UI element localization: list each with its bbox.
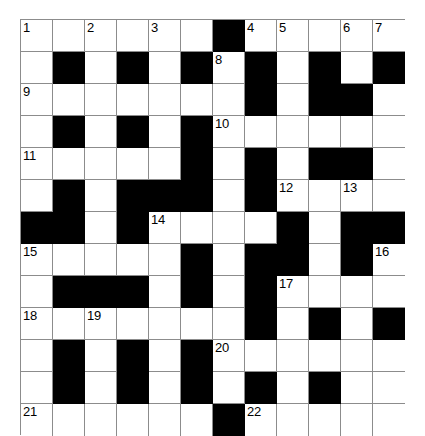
crossword-cell[interactable]: 3 — [149, 20, 181, 52]
crossword-cell[interactable] — [149, 52, 181, 84]
crossword-cell[interactable]: 18 — [21, 308, 53, 340]
crossword-cell[interactable] — [341, 404, 373, 436]
crossword-cell[interactable] — [213, 180, 245, 212]
crossword-cell[interactable]: 5 — [277, 20, 309, 52]
crossword-cell[interactable] — [149, 276, 181, 308]
crossword-cell[interactable] — [373, 372, 405, 404]
crossword-cell[interactable] — [373, 84, 405, 116]
crossword-cell[interactable] — [309, 276, 341, 308]
crossword-cell[interactable] — [309, 212, 341, 244]
crossword-cell[interactable]: 17 — [277, 276, 309, 308]
crossword-cell[interactable] — [85, 180, 117, 212]
crossword-cell[interactable] — [149, 372, 181, 404]
crossword-cell[interactable] — [341, 116, 373, 148]
crossword-grid[interactable]: 12345678910111213141516171819202122 — [20, 19, 405, 435]
crossword-cell[interactable] — [85, 404, 117, 436]
crossword-cell[interactable]: 16 — [373, 244, 405, 276]
crossword-cell[interactable]: 12 — [277, 180, 309, 212]
crossword-cell[interactable] — [149, 308, 181, 340]
crossword-cell[interactable]: 4 — [245, 20, 277, 52]
crossword-cell[interactable] — [373, 404, 405, 436]
crossword-cell[interactable] — [85, 212, 117, 244]
crossword-cell[interactable] — [277, 340, 309, 372]
crossword-cell[interactable] — [21, 116, 53, 148]
crossword-cell[interactable]: 10 — [213, 116, 245, 148]
crossword-cell[interactable] — [85, 372, 117, 404]
crossword-cell[interactable] — [21, 180, 53, 212]
crossword-cell[interactable] — [53, 308, 85, 340]
crossword-cell[interactable] — [21, 52, 53, 84]
crossword-cell[interactable] — [53, 84, 85, 116]
crossword-cell[interactable] — [117, 20, 149, 52]
crossword-cell[interactable]: 22 — [245, 404, 277, 436]
crossword-cell[interactable] — [21, 372, 53, 404]
crossword-cell[interactable] — [21, 276, 53, 308]
crossword-cell[interactable]: 20 — [213, 340, 245, 372]
crossword-cell[interactable] — [341, 372, 373, 404]
crossword-cell[interactable] — [309, 244, 341, 276]
crossword-cell[interactable] — [85, 52, 117, 84]
crossword-cell[interactable] — [213, 244, 245, 276]
crossword-cell[interactable] — [85, 84, 117, 116]
crossword-cell[interactable] — [245, 116, 277, 148]
crossword-cell[interactable]: 2 — [85, 20, 117, 52]
crossword-cell[interactable] — [85, 148, 117, 180]
crossword-cell[interactable]: 13 — [341, 180, 373, 212]
crossword-cell[interactable] — [373, 116, 405, 148]
crossword-cell[interactable]: 6 — [341, 20, 373, 52]
crossword-cell[interactable]: 7 — [373, 20, 405, 52]
crossword-cell[interactable]: 14 — [149, 212, 181, 244]
crossword-cell[interactable] — [53, 148, 85, 180]
crossword-cell[interactable] — [181, 20, 213, 52]
crossword-cell[interactable]: 11 — [21, 148, 53, 180]
crossword-cell[interactable] — [309, 180, 341, 212]
crossword-cell[interactable] — [341, 308, 373, 340]
crossword-cell[interactable] — [277, 372, 309, 404]
crossword-cell[interactable]: 19 — [85, 308, 117, 340]
crossword-cell[interactable]: 1 — [21, 20, 53, 52]
crossword-cell[interactable] — [117, 148, 149, 180]
crossword-cell[interactable] — [117, 404, 149, 436]
crossword-cell[interactable] — [181, 404, 213, 436]
crossword-cell[interactable] — [277, 116, 309, 148]
crossword-cell[interactable] — [149, 84, 181, 116]
crossword-cell[interactable] — [117, 244, 149, 276]
crossword-cell[interactable] — [309, 340, 341, 372]
crossword-cell[interactable] — [181, 308, 213, 340]
crossword-cell[interactable] — [149, 116, 181, 148]
crossword-cell[interactable] — [213, 372, 245, 404]
crossword-cell[interactable] — [181, 84, 213, 116]
crossword-cell[interactable]: 9 — [21, 84, 53, 116]
crossword-cell[interactable] — [373, 148, 405, 180]
crossword-cell[interactable]: 21 — [21, 404, 53, 436]
crossword-cell[interactable] — [277, 404, 309, 436]
crossword-cell[interactable] — [117, 308, 149, 340]
crossword-cell[interactable] — [213, 212, 245, 244]
crossword-cell[interactable] — [245, 340, 277, 372]
crossword-cell[interactable] — [213, 308, 245, 340]
crossword-cell[interactable] — [309, 20, 341, 52]
crossword-cell[interactable] — [181, 212, 213, 244]
crossword-cell[interactable] — [277, 308, 309, 340]
crossword-cell[interactable] — [21, 340, 53, 372]
crossword-cell[interactable] — [213, 276, 245, 308]
crossword-cell[interactable] — [213, 148, 245, 180]
crossword-cell[interactable] — [277, 52, 309, 84]
crossword-cell[interactable] — [373, 276, 405, 308]
crossword-cell[interactable] — [373, 180, 405, 212]
crossword-cell[interactable] — [309, 116, 341, 148]
crossword-cell[interactable] — [341, 340, 373, 372]
crossword-cell[interactable] — [341, 276, 373, 308]
crossword-cell[interactable] — [213, 84, 245, 116]
crossword-cell[interactable] — [149, 244, 181, 276]
crossword-cell[interactable] — [149, 340, 181, 372]
crossword-cell[interactable] — [85, 244, 117, 276]
crossword-cell[interactable] — [85, 340, 117, 372]
crossword-cell[interactable] — [53, 20, 85, 52]
crossword-cell[interactable] — [373, 340, 405, 372]
crossword-cell[interactable]: 8 — [213, 52, 245, 84]
crossword-cell[interactable] — [85, 116, 117, 148]
crossword-cell[interactable] — [117, 84, 149, 116]
crossword-cell[interactable] — [277, 84, 309, 116]
crossword-cell[interactable] — [341, 52, 373, 84]
